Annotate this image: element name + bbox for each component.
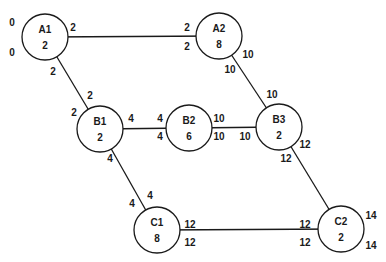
edge-label: 10 xyxy=(266,89,278,100)
edge-label: 10 xyxy=(224,64,236,75)
edge-label: 2 xyxy=(71,107,77,118)
edge-label: 12 xyxy=(299,219,311,230)
edge-label: 0 xyxy=(9,17,15,28)
edge-label: 4 xyxy=(129,198,135,209)
edge-label: 2 xyxy=(87,90,93,101)
edge-label: 0 xyxy=(9,47,15,58)
edge-label: 4 xyxy=(128,113,134,124)
edge-label: 12 xyxy=(299,139,311,150)
node-name: B3 xyxy=(273,114,286,125)
node-circle xyxy=(196,13,242,59)
edge-label: 10 xyxy=(213,113,225,124)
node-c1: C18 xyxy=(134,207,180,253)
edge-label: 4 xyxy=(157,131,163,142)
edge-label: 10 xyxy=(213,131,225,142)
edge-label: 4 xyxy=(107,153,113,164)
node-value: 2 xyxy=(42,40,48,51)
node-value: 8 xyxy=(154,233,160,244)
node-name: A2 xyxy=(213,23,226,34)
node-value: 8 xyxy=(216,39,222,50)
node-circle xyxy=(256,104,302,150)
edge-label: 12 xyxy=(184,219,196,230)
node-circle xyxy=(77,106,123,152)
edge-label: 10 xyxy=(242,49,254,60)
node-a2: A28 xyxy=(196,13,242,59)
node-name: C1 xyxy=(151,217,164,228)
edge-label: 2 xyxy=(184,41,190,52)
node-value: 2 xyxy=(97,132,103,143)
edge-label: 10 xyxy=(239,131,251,142)
edge-a1-a2 xyxy=(45,36,219,37)
edge-label: 4 xyxy=(147,190,153,201)
edge-label: 12 xyxy=(299,237,311,248)
edge-label: 4 xyxy=(157,113,163,124)
edge-label: 14 xyxy=(365,240,377,251)
edge-label: 2 xyxy=(50,66,56,77)
node-a1: A12 xyxy=(22,14,68,60)
node-b3: B32 xyxy=(256,104,302,150)
node-value: 6 xyxy=(186,131,192,142)
node-name: C2 xyxy=(335,216,348,227)
node-circle xyxy=(318,206,364,252)
edge-label: 12 xyxy=(184,237,196,248)
node-value: 2 xyxy=(338,232,344,243)
edge-label: 2 xyxy=(70,22,76,33)
edge-label: 12 xyxy=(280,153,292,164)
node-name: A1 xyxy=(39,24,52,35)
nodes: A12A28B12B26B32C18C22 xyxy=(22,13,364,253)
node-circle xyxy=(134,207,180,253)
edge-label: 14 xyxy=(365,210,377,221)
node-circle xyxy=(166,105,212,151)
node-name: B2 xyxy=(183,115,196,126)
node-c2: C22 xyxy=(318,206,364,252)
node-b2: B26 xyxy=(166,105,212,151)
network-diagram: A12A28B12B26B32C18C22 002222221010104441… xyxy=(0,0,386,262)
node-b1: B12 xyxy=(77,106,123,152)
node-value: 2 xyxy=(276,130,282,141)
node-circle xyxy=(22,14,68,60)
node-name: B1 xyxy=(94,116,107,127)
edge-label: 2 xyxy=(184,22,190,33)
